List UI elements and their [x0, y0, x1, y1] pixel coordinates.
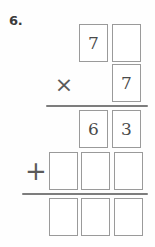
partial-product-1-ones-digit: 3	[121, 120, 132, 137]
partial-product-2-tens-box[interactable]	[81, 152, 110, 190]
multiplicand-tens-digit: 7	[88, 34, 99, 51]
final-sum-hundreds-box[interactable]	[49, 198, 78, 236]
partial-product-1-ones-box[interactable]: 3	[112, 110, 141, 148]
problem-number-label: 6.	[9, 14, 23, 27]
addition-sign-icon: +	[24, 158, 48, 184]
partial-product-1-tens-box[interactable]: 6	[79, 110, 108, 148]
addition-rule	[22, 193, 148, 195]
multiplicand-ones-box[interactable]	[112, 24, 141, 62]
multiplier-ones-box[interactable]: 7	[112, 64, 141, 102]
final-sum-ones-box[interactable]	[114, 198, 143, 236]
partial-product-1-tens-digit: 6	[88, 120, 99, 137]
multiplicand-tens-box[interactable]: 7	[79, 24, 108, 62]
final-sum-tens-box[interactable]	[81, 198, 110, 236]
partial-product-2-hundreds-box[interactable]	[49, 152, 78, 190]
partial-product-2-ones-box[interactable]	[114, 152, 143, 190]
multiplication-sign-icon: ×	[52, 74, 76, 96]
multiplication-rule	[46, 105, 148, 107]
worksheet-problem: 6. 7 × 7 6 3 +	[0, 0, 155, 247]
multiplier-ones-digit: 7	[121, 74, 132, 91]
